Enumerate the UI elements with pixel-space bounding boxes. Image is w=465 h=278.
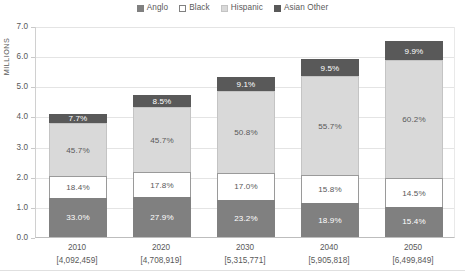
bar-segment-anglo[interactable]: 18.9%	[301, 203, 359, 237]
bar-group-2040[interactable]: 18.9%15.8%55.7%9.5%	[301, 59, 359, 237]
bar-segment-value-label: 9.1%	[237, 80, 256, 89]
bar-segment-hispanic[interactable]: 45.7%	[49, 123, 107, 177]
y-tick-label: 1.0	[17, 204, 28, 212]
bar-segment-value-label: 17.0%	[234, 182, 257, 191]
legend-swatch-icon	[221, 5, 228, 12]
bar-segment-asian-other[interactable]: 7.7%	[49, 114, 107, 123]
x-axis-year-label: 2020	[119, 241, 203, 254]
bar-segment-value-label: 7.7%	[69, 114, 88, 123]
bar-segment-value-label: 17.8%	[150, 181, 173, 190]
x-axis-total-label: [4,092,459]	[35, 254, 119, 267]
x-axis-tick-labels: 2010[4,092,459]2020[4,708,919]2030[5,315…	[35, 241, 455, 273]
bar-group-2030[interactable]: 23.2%17.0%50.8%9.1%	[217, 77, 275, 237]
x-axis-category-2040: 2040[5,905,818]	[287, 241, 371, 267]
bar-segment-anglo[interactable]: 23.2%	[217, 200, 275, 237]
bar-segment-asian-other[interactable]: 8.5%	[133, 95, 191, 107]
bar-segment-value-label: 9.5%	[321, 64, 340, 73]
plot-area: 33.0%18.4%45.7%7.7%27.9%17.8%45.7%8.5%23…	[35, 27, 455, 238]
bar-group-2010[interactable]: 33.0%18.4%45.7%7.7%	[49, 114, 107, 237]
bar-segment-hispanic[interactable]: 55.7%	[301, 76, 359, 175]
x-axis-total-label: [5,315,771]	[203, 254, 287, 267]
bar-segment-value-label: 50.8%	[234, 128, 257, 137]
bar-segment-value-label: 8.5%	[153, 97, 172, 106]
y-tick-label: 7.0	[17, 23, 28, 31]
bar-segment-hispanic[interactable]: 60.2%	[385, 60, 443, 178]
bar-segment-value-label: 55.7%	[318, 122, 341, 131]
bar-segment-value-label: 15.8%	[318, 185, 341, 194]
y-tick-mark	[31, 238, 35, 239]
legend-item-label: Black	[189, 4, 210, 12]
stacked-bar-chart: AngloBlackHispanicAsian Other MILLIONS 0…	[0, 0, 465, 278]
bar-segment-anglo[interactable]: 15.4%	[385, 207, 443, 237]
x-axis-total-label: [6,499,849]	[371, 254, 455, 267]
bar-segment-asian-other[interactable]: 9.1%	[217, 77, 275, 92]
legend-swatch-icon	[137, 5, 144, 12]
y-tick-label: 0.0	[17, 234, 28, 242]
x-axis-category-2020: 2020[4,708,919]	[119, 241, 203, 267]
bar-segment-black[interactable]: 17.8%	[133, 172, 191, 197]
legend-item-anglo[interactable]: Anglo	[137, 4, 168, 12]
x-axis-category-2050: 2050[6,499,849]	[371, 241, 455, 267]
bar-segment-value-label: 23.2%	[234, 214, 257, 223]
x-axis-year-label: 2010	[35, 241, 119, 254]
x-axis-category-2030: 2030[5,315,771]	[203, 241, 287, 267]
bar-segment-value-label: 27.9%	[150, 213, 173, 222]
bar-segment-black[interactable]: 15.8%	[301, 175, 359, 203]
x-axis-category-2010: 2010[4,092,459]	[35, 241, 119, 267]
legend-item-label: Asian Other	[284, 4, 328, 12]
x-axis-year-label: 2030	[203, 241, 287, 254]
bar-segment-hispanic[interactable]: 45.7%	[133, 107, 191, 172]
legend-item-asian-other[interactable]: Asian Other	[274, 4, 328, 12]
bar-segment-anglo[interactable]: 33.0%	[49, 198, 107, 237]
bar-group-2020[interactable]: 27.9%17.8%45.7%8.5%	[133, 95, 191, 237]
bar-segment-value-label: 60.2%	[402, 115, 425, 124]
y-tick-label: 3.0	[17, 144, 28, 152]
bar-segment-asian-other[interactable]: 9.5%	[301, 59, 359, 76]
y-tick-label: 6.0	[17, 53, 28, 61]
y-tick-label: 4.0	[17, 113, 28, 121]
bar-segment-value-label: 15.4%	[402, 217, 425, 226]
bar-segment-hispanic[interactable]: 50.8%	[217, 91, 275, 172]
bar-segment-value-label: 45.7%	[150, 136, 173, 145]
bar-segment-anglo[interactable]: 27.9%	[133, 197, 191, 237]
legend-item-label: Hispanic	[231, 4, 263, 12]
bar-segment-value-label: 18.4%	[66, 183, 89, 192]
bar-segment-black[interactable]: 17.0%	[217, 173, 275, 200]
legend-item-hispanic[interactable]: Hispanic	[221, 4, 263, 12]
legend-item-black[interactable]: Black	[179, 4, 210, 12]
bar-group-2050[interactable]: 15.4%14.5%60.2%9.9%	[385, 41, 443, 237]
bar-segment-value-label: 18.9%	[318, 216, 341, 225]
bar-series-container: 33.0%18.4%45.7%7.7%27.9%17.8%45.7%8.5%23…	[36, 27, 454, 237]
x-axis-year-label: 2040	[287, 241, 371, 254]
x-axis-year-label: 2050	[371, 241, 455, 254]
legend-swatch-icon	[274, 5, 281, 12]
bar-segment-value-label: 9.9%	[405, 47, 424, 56]
bar-segment-black[interactable]: 18.4%	[49, 176, 107, 198]
bar-segment-value-label: 14.5%	[402, 189, 425, 198]
bar-segment-asian-other[interactable]: 9.9%	[385, 41, 443, 60]
chart-legend: AngloBlackHispanicAsian Other	[0, 1, 465, 15]
x-axis-total-label: [4,708,919]	[119, 254, 203, 267]
y-tick-label: 2.0	[17, 174, 28, 182]
footer-rule	[0, 270, 465, 271]
legend-item-label: Anglo	[147, 4, 168, 12]
x-axis-total-label: [5,905,818]	[287, 254, 371, 267]
bar-segment-value-label: 45.7%	[66, 146, 89, 155]
y-tick-label: 5.0	[17, 83, 28, 91]
y-axis-tick-labels: 0.01.02.03.04.05.06.07.0	[0, 27, 32, 238]
bar-segment-black[interactable]: 14.5%	[385, 178, 443, 206]
bar-segment-value-label: 33.0%	[66, 213, 89, 222]
legend-swatch-icon	[179, 5, 186, 12]
